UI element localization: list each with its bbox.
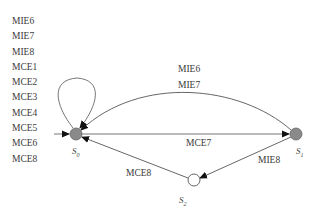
- self-loop-label: MIE7: [12, 29, 37, 44]
- self-loop-label: MCE5: [12, 121, 37, 136]
- state-node-s1: [290, 128, 302, 140]
- state-node-s2: [188, 174, 200, 186]
- self-loop-edge: [58, 78, 95, 128]
- self-loop-label-list: MIE6 MIE7 MIE8 MCE1 MCE2 MCE3 MCE4 MCE5 …: [12, 14, 37, 167]
- state-label-s2: S2: [179, 195, 187, 207]
- self-loop-label: MCE8: [12, 152, 37, 167]
- self-loop-label: MCE1: [12, 60, 37, 75]
- self-loop-label: MIE8: [12, 45, 37, 60]
- self-loop-label: MIE6: [12, 14, 37, 29]
- state-label-s1: S1: [296, 146, 304, 158]
- state-diagram: [0, 0, 316, 215]
- self-loop-label: MCE4: [12, 106, 37, 121]
- state-node-s0: [70, 128, 82, 140]
- self-loop-label: MCE3: [12, 90, 37, 105]
- self-loop-label: MCE2: [12, 75, 37, 90]
- edge-label-mce7: MCE7: [186, 138, 211, 148]
- edge-label-mie6: MIE6: [178, 64, 200, 74]
- edge-label-mce8: MCE8: [126, 168, 151, 178]
- edge-label-mie7: MIE7: [178, 80, 200, 90]
- edge-label-mie8: MIE8: [258, 155, 280, 165]
- edge-s1-s0-arc: [81, 92, 291, 130]
- self-loop-label: MCE6: [12, 136, 37, 151]
- state-label-s0: S0: [72, 146, 80, 158]
